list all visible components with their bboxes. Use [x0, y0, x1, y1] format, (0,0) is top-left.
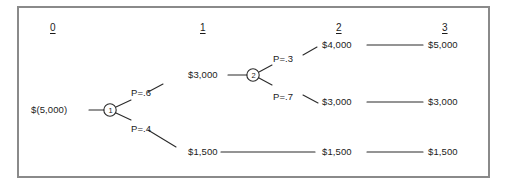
stage2-middle-cashflow: $3,000 [322, 97, 352, 107]
stage1-upper-cashflow: $3,000 [188, 70, 218, 80]
probability-middle-branch: P=.7 [273, 92, 293, 102]
stage2-bottom-cashflow: $1,500 [322, 147, 352, 157]
stage2-top-cashflow: $4,000 [322, 40, 352, 50]
stage3-middle-cashflow: $3,000 [428, 97, 458, 107]
initial-cashflow: $(5,000) [31, 105, 67, 115]
node-1-label: 1 [104, 107, 117, 115]
column-header-2: 2 [336, 23, 342, 33]
column-header-0: 0 [50, 23, 56, 33]
probability-upper-branch: P=.6 [131, 88, 151, 98]
node-2-label: 2 [247, 72, 260, 80]
column-header-1: 1 [200, 23, 206, 33]
probability-top-branch: P=.3 [273, 54, 293, 64]
probability-lower-branch: P=.4 [131, 124, 151, 134]
column-header-3: 3 [442, 23, 448, 33]
stage3-bottom-cashflow: $1,500 [428, 147, 458, 157]
stage3-top-cashflow: $5,000 [428, 40, 458, 50]
decision-tree-diagram: 0 1 2 3 1 2 $(5,000) P=.6 P=.4 $3,000 $1… [0, 0, 506, 188]
stage1-lower-cashflow: $1,500 [188, 147, 218, 157]
tree-branch-lines [0, 0, 506, 188]
